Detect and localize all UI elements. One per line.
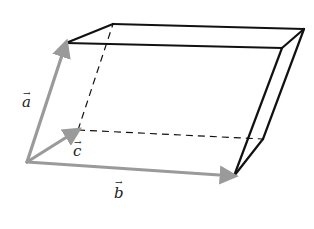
vector-b-arrow xyxy=(27,162,234,176)
visible-edges xyxy=(66,24,304,176)
label-a: a → xyxy=(22,88,31,111)
hidden-edge-C-BC xyxy=(78,130,263,139)
edge-A-AC xyxy=(66,24,113,43)
label-c-arrow-icon: → xyxy=(74,137,82,147)
edge-AC-ABC xyxy=(113,24,304,29)
label-b-arrow-icon: → xyxy=(115,177,123,187)
label-b: b → xyxy=(114,177,124,202)
hidden-edge-C-AC xyxy=(78,24,113,130)
parallelepiped-diagram: a → b → c → xyxy=(0,0,314,229)
vector-a-arrow xyxy=(27,43,66,162)
edge-BC-B xyxy=(234,139,263,176)
label-c: c → xyxy=(73,137,82,160)
label-a-arrow-icon: → xyxy=(23,88,31,98)
hidden-edges xyxy=(78,24,263,139)
vector-labels: a → b → c → xyxy=(22,88,124,202)
vectors xyxy=(27,43,234,176)
edge-AB-B xyxy=(234,48,282,176)
edge-A-AB xyxy=(66,43,282,48)
